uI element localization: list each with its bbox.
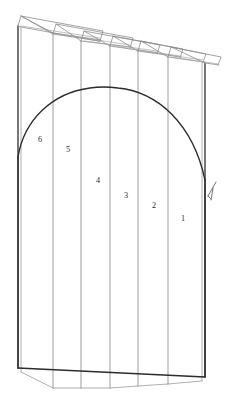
panel-label-5: 5	[66, 145, 70, 154]
panel-label-1: 1	[181, 214, 185, 223]
panel-label-2: 2	[152, 201, 156, 210]
diagram-canvas: 1 2 3 4 5 6	[0, 0, 234, 404]
panel-label-4: 4	[96, 176, 100, 185]
figure-background	[0, 0, 234, 404]
panel-label-3: 3	[124, 191, 128, 200]
pleated-arch-figure: 1 2 3 4 5 6	[0, 0, 234, 404]
panel-label-6: 6	[38, 135, 42, 144]
